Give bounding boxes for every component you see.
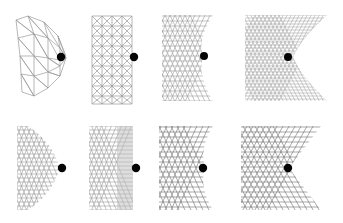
- marker-dot-2: [130, 53, 138, 61]
- marker-dot-5: [58, 164, 66, 172]
- panel-3: [157, 10, 233, 106]
- panel-1-mesh: [8, 10, 84, 106]
- marker-dot-8: [284, 164, 292, 172]
- mesh-lines-8: [237, 120, 329, 216]
- panel-4: [241, 10, 337, 106]
- panel-6: [83, 120, 147, 216]
- panel-4-mesh: [241, 10, 337, 106]
- panel-5-mesh: [8, 120, 84, 216]
- marker-dot-6: [132, 164, 140, 172]
- marker-dot-4: [284, 53, 292, 61]
- panel-6-shaded-region: [117, 126, 133, 210]
- mesh-lines-7: [155, 120, 231, 216]
- mesh-lines-5: [8, 120, 84, 216]
- panel-2: [86, 10, 144, 106]
- marker-dot-3: [200, 52, 208, 60]
- panel-8: [237, 120, 329, 216]
- mesh-lines-2: [92, 16, 132, 104]
- figure-panel-grid: [0, 0, 343, 223]
- panel-7-mesh: [155, 120, 231, 216]
- panel-7: [155, 120, 231, 216]
- panel-6-mesh: [83, 120, 147, 216]
- panel-3-mesh: [157, 10, 233, 106]
- marker-dot-7: [199, 164, 207, 172]
- panel-2-mesh: [86, 10, 144, 106]
- panel-5: [8, 120, 84, 216]
- panel-1: [8, 10, 84, 106]
- panel-8-mesh: [237, 120, 329, 216]
- marker-dot-1: [57, 53, 65, 61]
- mesh-lines-3: [157, 10, 233, 106]
